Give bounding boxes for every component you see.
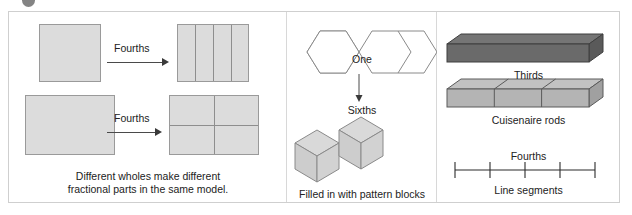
line-segments-caption: Line segments <box>437 184 620 197</box>
arrow-square-to-fourths <box>107 56 169 70</box>
fourths-label-line-segments: Fourths <box>437 150 620 162</box>
bullet-marker-icon <box>22 0 35 7</box>
area-models-panel: Fourths Fourths Different wholes make di… <box>9 12 287 202</box>
cuisenaire-rods-caption: Cuisenaire rods <box>437 114 620 127</box>
square-divider-3 <box>231 25 232 81</box>
square-divider-1 <box>195 25 196 81</box>
figure-root: Fourths Fourths Different wholes make di… <box>0 0 632 215</box>
arrow-rectangle-to-fourths <box>107 126 162 140</box>
rectangle-divider-horizontal <box>170 125 258 126</box>
thirds-label: Thirds <box>437 69 620 81</box>
whole-square <box>39 24 101 82</box>
pattern-blocks-panel: One Sixths Filled in with pattern blocks <box>287 12 437 202</box>
fourths-label-rectangle: Fourths <box>114 112 150 124</box>
figure-frame: Fourths Fourths Different wholes make di… <box>8 11 620 203</box>
rods-and-lines-panel: Thirds Cuisenaire rods Fourths Line segm… <box>437 12 620 202</box>
fourths-label-square: Fourths <box>114 42 150 54</box>
area-models-caption: Different wholes make different fraction… <box>9 170 287 196</box>
pattern-blocks-caption: Filled in with pattern blocks <box>287 188 437 201</box>
whole-rectangle <box>25 95 115 155</box>
area-caption-line-2: fractional parts in the same model. <box>9 183 287 196</box>
area-caption-line-1: Different wholes make different <box>9 170 287 183</box>
whole-label-one: One <box>287 53 437 65</box>
partitioned-square <box>177 24 249 82</box>
rods-and-lines-graphic <box>437 12 620 204</box>
square-divider-2 <box>213 25 214 81</box>
sixths-label: Sixths <box>287 104 437 116</box>
partitioned-rectangle <box>169 95 259 155</box>
